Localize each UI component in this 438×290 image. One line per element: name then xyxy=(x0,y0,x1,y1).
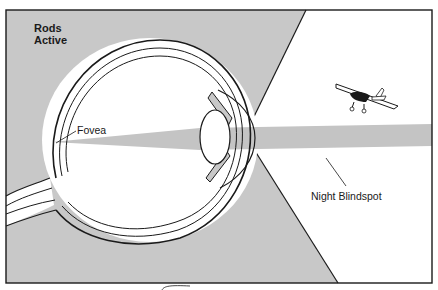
lens xyxy=(200,110,230,164)
fovea-label: Fovea xyxy=(77,124,106,136)
night-blindspot-label: Night Blindspot xyxy=(311,190,382,202)
rods-active-label: Rods Active xyxy=(34,22,67,46)
